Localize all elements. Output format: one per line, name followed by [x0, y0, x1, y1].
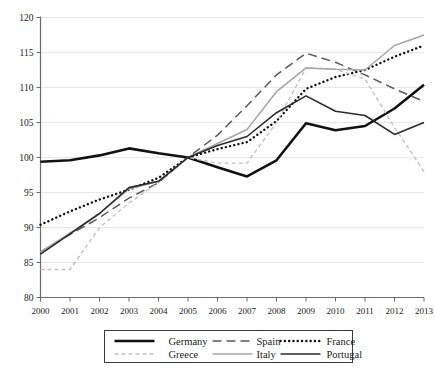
x-tick-label: 2004	[150, 306, 169, 316]
legend-label-italy: Italy	[257, 349, 277, 360]
legend-label-france: France	[327, 336, 356, 347]
y-tick-label: 90	[24, 223, 34, 233]
x-tick-label: 2003	[120, 306, 139, 316]
legend: GermanySpainFranceGreeceItalyPortugal	[105, 331, 363, 363]
y-tick-label: 95	[24, 188, 34, 198]
legend-box	[105, 331, 353, 363]
x-tick-label: 2001	[61, 306, 79, 316]
y-tick-label: 110	[20, 83, 34, 93]
x-tick-label: 2012	[386, 306, 404, 316]
x-tick-label: 2013	[415, 306, 434, 316]
y-axis: 80859095100105110115120	[19, 13, 40, 303]
figure-container: 8085909510010511011512020002001200220032…	[0, 0, 435, 381]
y-tick-label: 100	[19, 153, 34, 163]
y-tick-label: 105	[19, 118, 34, 128]
legend-label-portugal: Portugal	[327, 349, 363, 360]
x-tick-label: 2010	[327, 306, 346, 316]
y-tick-label: 120	[19, 13, 34, 23]
x-tick-label: 2005	[179, 306, 198, 316]
x-tick-label: 2008	[268, 306, 287, 316]
y-tick-label: 115	[20, 48, 34, 58]
x-axis: 2000200120022003200420052006200720082009…	[32, 298, 434, 316]
legend-label-germany: Germany	[169, 336, 209, 347]
y-tick-label: 80	[24, 293, 34, 303]
x-tick-label: 2002	[91, 306, 109, 316]
line-chart: 8085909510010511011512020002001200220032…	[0, 0, 435, 381]
legend-label-spain: Spain	[257, 336, 282, 347]
legend-label-greece: Greece	[169, 349, 199, 360]
x-tick-label: 2011	[356, 306, 374, 316]
x-tick-label: 2009	[297, 306, 316, 316]
x-tick-label: 2006	[209, 306, 228, 316]
y-tick-label: 85	[24, 258, 34, 268]
x-tick-label: 2000	[32, 306, 51, 316]
x-tick-label: 2007	[238, 306, 257, 316]
